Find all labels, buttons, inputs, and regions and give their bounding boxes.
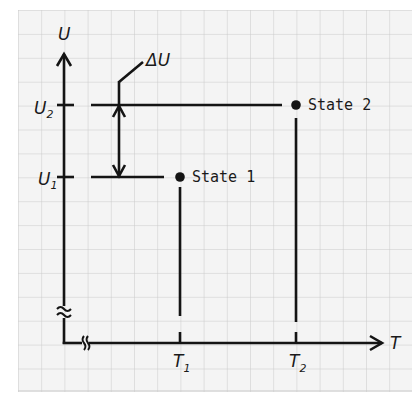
energy-temperature-diagram: U T U2 U1 T1 T2 ΔU State 1 State 2 [0, 0, 412, 402]
delta-u-label: ΔU [144, 50, 171, 70]
x-axis-label: T [390, 333, 402, 353]
y-axis-label: U [58, 24, 71, 44]
state-1-label: State 1 [192, 168, 255, 186]
graph-paper-grid [18, 10, 412, 392]
state-2-label: State 2 [308, 96, 371, 114]
state-2-point [291, 100, 301, 110]
state-1-point [175, 172, 185, 182]
